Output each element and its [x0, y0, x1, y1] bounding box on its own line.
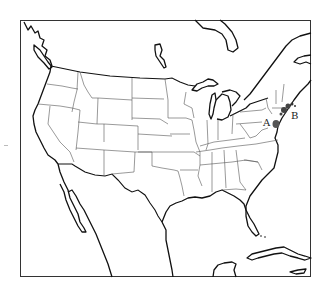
- marker-b-dot-4: [294, 105, 296, 107]
- marker-b-dot-5: [280, 113, 283, 116]
- bc-coastline: [24, 22, 52, 66]
- marker-a-dot: [273, 120, 280, 128]
- marker-a-label: A: [263, 118, 270, 128]
- mexico-gulf-coast: [162, 222, 173, 277]
- vancouver-island: [34, 45, 52, 69]
- marker-b-label: B: [291, 111, 298, 121]
- lake-winnipeg: [155, 44, 166, 68]
- lake-huron: [222, 90, 240, 106]
- us-outline-map: [0, 0, 330, 293]
- marker-b-dot: [281, 107, 287, 113]
- yucatan: [213, 262, 236, 277]
- cuba: [247, 247, 311, 260]
- baja-california: [58, 164, 86, 232]
- quebec-coast: [244, 33, 311, 100]
- gulf-of-california: [68, 190, 112, 277]
- lake-michigan: [209, 93, 216, 119]
- florida-keys-2: [264, 236, 266, 238]
- lake-erie-ontario: [230, 98, 268, 116]
- us-west-coast: [33, 66, 58, 164]
- michigan-lower-peninsula: [216, 94, 231, 120]
- florida-keys: [260, 235, 262, 237]
- marker-b-dot-3: [291, 103, 294, 106]
- hispaniola: [290, 269, 306, 274]
- lake-superior: [192, 79, 218, 91]
- st-lawrence-coast: [294, 55, 311, 64]
- hudson-bay-coast: [195, 20, 238, 52]
- marker-b-dot-2: [286, 104, 291, 109]
- gulf-coast: [162, 190, 259, 236]
- canada-us-border: [51, 66, 195, 86]
